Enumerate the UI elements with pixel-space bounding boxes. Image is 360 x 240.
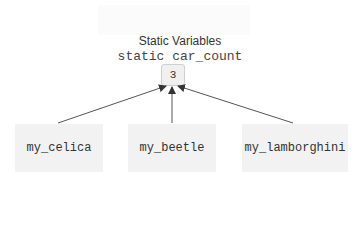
object-box-my-beetle: my_beetle <box>128 124 216 172</box>
arrow-lamborghini <box>178 86 293 123</box>
object-box-my-celica: my_celica <box>15 124 103 172</box>
object-label: my_lamborghini <box>245 141 346 155</box>
object-label: my_celica <box>27 141 92 155</box>
object-box-my-lamborghini: my_lamborghini <box>242 124 348 172</box>
arrow-celica <box>58 86 166 123</box>
object-label: my_beetle <box>140 141 205 155</box>
